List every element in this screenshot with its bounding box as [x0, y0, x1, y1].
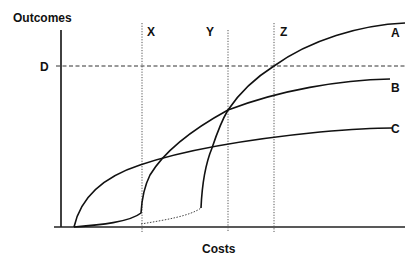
- curve-c-label: C: [391, 122, 400, 136]
- threshold-d-label: D: [40, 60, 49, 74]
- curve-a-label: A: [391, 26, 400, 40]
- curve-a-dotted-segment: [141, 208, 201, 224]
- curve-b: [74, 79, 390, 227]
- curve-c: [74, 128, 392, 227]
- x-axis-title: Costs: [202, 242, 236, 256]
- y-axis-title: Outcomes: [13, 11, 72, 25]
- threshold-z-label: Z: [280, 25, 287, 39]
- threshold-x-label: X: [147, 25, 155, 39]
- cost-outcome-diagram: Outcomes Costs D X Y Z A B C: [0, 0, 418, 269]
- curve-b-label: B: [391, 81, 400, 95]
- threshold-y-label: Y: [206, 25, 214, 39]
- curve-a: [201, 23, 405, 208]
